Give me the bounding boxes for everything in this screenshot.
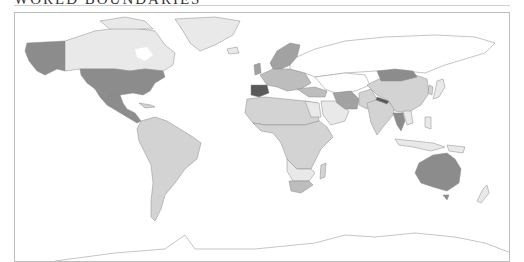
region-indonesia[interactable] [395,139,445,151]
map-title: WORLD BOUNDARIES [14,0,201,8]
region-canada[interactable] [65,27,175,71]
region-canada-arctic[interactable] [100,17,153,29]
region-new-zealand[interactable] [477,185,489,203]
region-tasmania[interactable] [443,195,449,200]
region-papua[interactable] [447,145,465,153]
region-spain[interactable] [251,85,269,97]
region-iceland[interactable] [227,47,239,54]
region-antarctica[interactable] [55,233,510,262]
world-map[interactable] [15,13,510,262]
region-south-america[interactable] [137,117,201,221]
region-greenland[interactable] [175,17,240,51]
region-philippines[interactable] [425,117,431,129]
region-sub-saharan-africa[interactable] [253,121,333,169]
region-madagascar[interactable] [320,163,326,179]
region-united-kingdom[interactable] [254,63,261,75]
region-south-africa[interactable] [289,181,313,193]
region-eastern-europe[interactable] [297,87,327,97]
region-united-states[interactable] [80,69,165,95]
region-australia[interactable] [415,153,461,191]
region-caribbean[interactable] [139,103,155,108]
region-japan[interactable] [433,79,445,99]
region-thailand[interactable] [393,113,405,131]
region-korea[interactable] [428,85,433,95]
map-frame[interactable] [14,12,510,262]
title-underline [14,5,510,6]
region-alaska[interactable] [25,41,65,75]
